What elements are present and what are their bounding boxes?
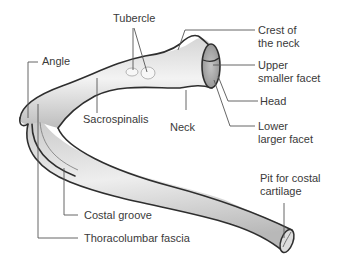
label-angle: Angle (42, 55, 70, 68)
label-costal-groove: Costal groove (84, 209, 152, 222)
label-lower-facet-2: larger facet (258, 133, 313, 146)
label-sacrospinalis: Sacrospinalis (83, 113, 148, 126)
label-neck: Neck (170, 121, 195, 134)
label-upper-facet-2: smaller facet (258, 72, 320, 85)
label-upper-facet-1: Upper (258, 59, 288, 72)
label-tubercle: Tubercle (113, 12, 155, 25)
label-crest-of-neck-2: the neck (258, 37, 300, 50)
label-lower-facet-1: Lower (258, 120, 288, 133)
label-pit-costal-2: cartilage (260, 185, 302, 198)
label-head: Head (260, 95, 286, 108)
label-pit-costal-1: Pit for costal (260, 172, 321, 185)
rib-head (202, 44, 220, 88)
label-crest-of-neck-1: Crest of (258, 24, 297, 37)
label-thoracolumbar-fascia: Thoracolumbar fascia (84, 232, 190, 245)
